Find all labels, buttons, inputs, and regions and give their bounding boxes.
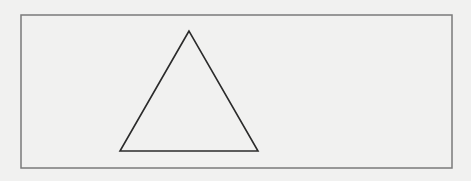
diagram-canvas [0,0,471,181]
diagram-frame [21,15,452,168]
triangle-shape [120,31,258,151]
